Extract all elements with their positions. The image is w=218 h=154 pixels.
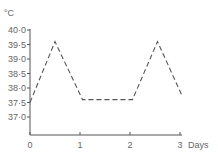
y-axis-unit-label: °C (4, 8, 15, 18)
y-tick-label: 40·0 (8, 25, 26, 35)
x-tick-label: 3 (177, 140, 182, 150)
temperature-line (30, 42, 183, 103)
y-tick-label: 38·5 (8, 69, 26, 79)
y-tick-label: 37·0 (8, 112, 26, 122)
temperature-chart: °C 37·037·538·038·539·039·540·0 0123 Day… (0, 0, 218, 154)
y-tick-label: 39·5 (8, 40, 26, 50)
x-tick-label: 2 (127, 140, 132, 150)
y-tick-label: 39·0 (8, 54, 26, 64)
x-tick-label: 0 (27, 140, 32, 150)
y-tick-label: 38·0 (8, 83, 26, 93)
x-tick-label: 1 (77, 140, 82, 150)
y-ticks: 37·037·538·038·539·039·540·0 (8, 25, 30, 122)
x-axis-unit-label: Days (188, 140, 209, 150)
y-tick-label: 37·5 (8, 98, 26, 108)
